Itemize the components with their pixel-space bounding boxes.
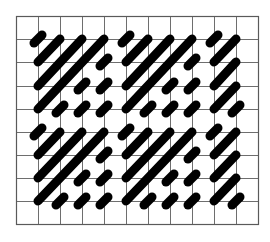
stitch-dot — [188, 151, 196, 159]
stitch-dot — [188, 174, 196, 182]
stitch-dot — [166, 174, 174, 182]
stitch-dot — [78, 82, 86, 90]
stitch-pattern-diagram — [0, 0, 270, 242]
stitch-dot — [100, 105, 108, 113]
stitch-dot — [210, 35, 218, 43]
stitch-dot — [188, 58, 196, 66]
stitch-dot — [100, 58, 108, 66]
stitch-dot — [188, 82, 196, 90]
stitch-dot — [232, 197, 240, 205]
stitch-dot — [56, 105, 64, 113]
stitch-dot — [122, 128, 130, 136]
stitch-dot — [188, 105, 196, 113]
stitch-dot — [78, 197, 86, 205]
stitch-dot — [34, 128, 42, 136]
stitch-dot — [100, 82, 108, 90]
stitch-dot — [210, 128, 218, 136]
stitch-dot — [100, 151, 108, 159]
stitch-dot — [100, 197, 108, 205]
stitch-dot — [166, 82, 174, 90]
stitch-dot — [78, 174, 86, 182]
stitch-dot — [166, 197, 174, 205]
stitch-dot — [100, 174, 108, 182]
stitch-dot — [144, 105, 152, 113]
stitch-dot — [166, 105, 174, 113]
stitch-dot — [122, 35, 130, 43]
stitch-dot — [232, 105, 240, 113]
stitch-dot — [144, 197, 152, 205]
stitch-dot — [78, 105, 86, 113]
stitch-dot — [34, 35, 42, 43]
stitch-dot — [56, 197, 64, 205]
stitch-dot — [188, 197, 196, 205]
